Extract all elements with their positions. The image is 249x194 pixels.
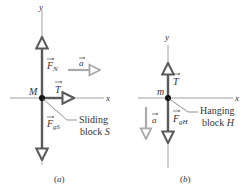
callout-line2: block H	[202, 117, 235, 128]
diagram-b: y x m T a FgH Hanging block H (b)	[138, 32, 239, 184]
x-axis-label: x	[234, 93, 239, 103]
acceleration-label: a	[152, 115, 157, 125]
mass-label: m	[157, 86, 164, 97]
y-axis-label: y	[38, 2, 43, 12]
y-axis-label: y	[164, 32, 169, 42]
callout-line2: block S	[80, 126, 110, 137]
callout-line1: Sliding	[79, 114, 108, 125]
x-axis-label: x	[105, 93, 110, 103]
caption-a: (a)	[54, 174, 65, 184]
tension-label: T	[55, 84, 62, 95]
normal-force-label: FN	[46, 60, 58, 73]
callout-leader	[168, 98, 198, 112]
gravity-label: FgH	[172, 113, 189, 126]
callout-line1: Hanging	[200, 105, 234, 116]
caption-b: (b)	[180, 174, 191, 184]
mass-label: M	[28, 86, 38, 97]
gravity-label: FgS	[46, 118, 61, 131]
diagram-a: y x M FN T a FgS Sliding block S (a)	[10, 2, 110, 184]
tension-label: T	[173, 76, 180, 87]
acceleration-label: a	[79, 58, 84, 68]
free-body-diagrams: y x M FN T a FgS Sliding block S (a) y x	[0, 0, 249, 194]
